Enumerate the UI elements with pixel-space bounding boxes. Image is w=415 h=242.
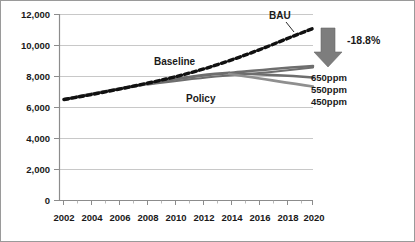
y-tick-label-12000: 12,000 bbox=[21, 9, 50, 20]
chart-container: 12,000 10,000 8,000 6,000 4,000 2,000 0 … bbox=[0, 0, 415, 242]
y-axis-tick-labels: 12,000 10,000 8,000 6,000 4,000 2,000 0 bbox=[21, 9, 50, 206]
x-tick-label-2014: 2014 bbox=[221, 212, 243, 223]
chart-plot: 12,000 10,000 8,000 6,000 4,000 2,000 0 … bbox=[1, 1, 415, 242]
legend-label-550ppm: 550ppm bbox=[311, 84, 347, 95]
x-tick-label-2006: 2006 bbox=[109, 212, 130, 223]
y-tick-label-6000: 6,000 bbox=[26, 102, 50, 113]
y-tick-label-8000: 8,000 bbox=[26, 71, 50, 82]
x-tick-label-2004: 2004 bbox=[81, 212, 103, 223]
legend-label-450ppm: 450ppm bbox=[311, 96, 347, 107]
x-tick-label-2016: 2016 bbox=[249, 212, 270, 223]
x-tick-label-2002: 2002 bbox=[53, 212, 74, 223]
y-axis-ticks bbox=[54, 15, 59, 201]
legend-label-650ppm: 650ppm bbox=[311, 72, 347, 83]
x-tick-label-2020: 2020 bbox=[303, 212, 324, 223]
reduction-percent-label: -18.8% bbox=[347, 34, 381, 46]
baseline-label: Baseline bbox=[154, 56, 196, 67]
y-tick-label-0: 0 bbox=[45, 195, 50, 206]
y-tick-label-10000: 10,000 bbox=[21, 40, 50, 51]
x-tick-label-2008: 2008 bbox=[137, 212, 158, 223]
reduction-arrow-icon bbox=[314, 28, 342, 67]
bau-leader-line bbox=[286, 22, 294, 32]
x-axis-tick-labels: 2002 2004 2006 2008 2010 2012 2014 2016 … bbox=[53, 212, 324, 223]
y-tick-label-4000: 4,000 bbox=[26, 133, 50, 144]
x-axis-ticks bbox=[64, 201, 313, 206]
policy-label: Policy bbox=[186, 93, 216, 104]
x-tick-label-2010: 2010 bbox=[165, 212, 186, 223]
y-tick-label-2000: 2,000 bbox=[26, 164, 50, 175]
bau-label: BAU bbox=[269, 10, 291, 21]
x-tick-label-2012: 2012 bbox=[193, 212, 214, 223]
x-tick-label-2018: 2018 bbox=[277, 212, 298, 223]
